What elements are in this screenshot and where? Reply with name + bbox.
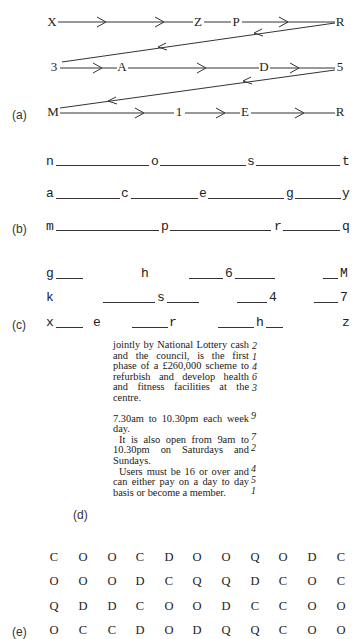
- blank-line: [56, 165, 149, 166]
- letter: R: [336, 15, 345, 28]
- grid-letter: C: [165, 574, 173, 589]
- letter: D: [259, 60, 268, 73]
- margin-number: 9: [251, 410, 256, 421]
- letter: m: [46, 220, 54, 233]
- blank-line: [189, 278, 223, 279]
- section-c-label: (c): [12, 318, 26, 332]
- grid-letter: O: [336, 623, 345, 638]
- section-a-label: (a): [12, 108, 27, 122]
- letter: p: [161, 220, 169, 233]
- blank-line: [167, 302, 199, 303]
- grid-letter: D: [192, 623, 201, 638]
- blank-line: [218, 327, 254, 328]
- paragraph: It is also open from 9am to 10.30pm on S…: [113, 435, 249, 467]
- letter: 4: [269, 291, 277, 304]
- grid-letter: D: [135, 623, 144, 638]
- grid-letter: Q: [250, 550, 259, 565]
- letter: e: [199, 187, 207, 200]
- grid-letter: Q: [49, 599, 58, 614]
- blank-line: [237, 302, 267, 303]
- section-b-label: (b): [12, 222, 27, 236]
- letter: q: [342, 220, 350, 233]
- letter: P: [232, 15, 239, 28]
- letter: A: [117, 60, 126, 73]
- letter: s: [157, 291, 165, 304]
- margin-number: 1: [251, 485, 256, 496]
- letter: h: [141, 267, 149, 280]
- letter: R: [336, 105, 345, 118]
- grid-letter: C: [136, 599, 144, 614]
- blank-line: [235, 278, 275, 279]
- letter: r: [169, 316, 177, 329]
- letter: 7: [340, 291, 348, 304]
- margin-number: 3: [252, 382, 257, 393]
- blank-line: [160, 165, 246, 166]
- grid-letter: O: [278, 550, 287, 565]
- letter: e: [93, 316, 101, 329]
- letter: 6: [225, 267, 233, 280]
- grid-letter: Q: [250, 623, 259, 638]
- grid-letter: O: [307, 599, 316, 614]
- grid-letter: D: [107, 599, 116, 614]
- letter: n: [46, 155, 54, 168]
- letter: 5: [337, 60, 344, 73]
- grid-letter: Q: [221, 574, 230, 589]
- grid-letter: C: [279, 623, 287, 638]
- letter: x: [46, 316, 54, 329]
- letter: z: [342, 316, 350, 329]
- grid-letter: C: [79, 623, 87, 638]
- grid-letter: C: [108, 623, 116, 638]
- grid-letter: C: [251, 599, 259, 614]
- grid-letter: O: [78, 574, 87, 589]
- blank-line: [323, 278, 338, 279]
- grid-letter: C: [279, 574, 287, 589]
- paragraph: Users must be 16 or over and can either …: [113, 467, 249, 499]
- grid-letter: O: [49, 574, 58, 589]
- grid-letter: O: [336, 599, 345, 614]
- blank-line: [283, 230, 340, 231]
- paragraph: 7.30am to 10.30pm each week day.: [113, 414, 249, 435]
- grid-letter: C: [136, 550, 144, 565]
- letter: t: [342, 155, 350, 168]
- grid-letter: O: [192, 599, 201, 614]
- grid-letter: D: [78, 599, 87, 614]
- grid-letter: C: [337, 574, 345, 589]
- margin-number: 5: [251, 474, 256, 485]
- blank-line: [266, 327, 283, 328]
- letter: s: [247, 155, 255, 168]
- blank-line: [56, 278, 83, 279]
- margin-number: 2: [251, 442, 256, 453]
- letter: c: [121, 187, 129, 200]
- letter: g: [46, 267, 54, 280]
- letter: X: [47, 15, 56, 28]
- grid-letter: O: [307, 623, 316, 638]
- blank-line: [103, 302, 155, 303]
- section-d-label: (d): [73, 508, 88, 522]
- grid-letter: D: [250, 574, 259, 589]
- grid-letter: O: [192, 550, 201, 565]
- article-text: jointly by National Lottery cash and the…: [113, 340, 249, 498]
- margin-number: 2: [252, 340, 257, 351]
- letter: M: [47, 105, 59, 118]
- grid-letter: D: [307, 550, 316, 565]
- grid-letter: C: [337, 550, 345, 565]
- blank-line: [131, 198, 198, 199]
- blank-line: [56, 198, 120, 199]
- grid-letter: D: [164, 550, 173, 565]
- letter: E: [241, 105, 249, 118]
- letter: h: [256, 316, 264, 329]
- grid-letter: D: [135, 574, 144, 589]
- grid-letter: D: [221, 599, 230, 614]
- blank-line: [295, 198, 341, 199]
- letter: a: [46, 187, 54, 200]
- blank-line: [256, 165, 340, 166]
- letter: 1: [176, 105, 183, 118]
- paragraph: jointly by National Lottery cash and the…: [113, 340, 249, 404]
- blank-line: [314, 302, 338, 303]
- letter: g: [286, 187, 294, 200]
- grid-letter: O: [307, 574, 316, 589]
- grid-letter: Q: [221, 623, 230, 638]
- letter: o: [151, 155, 159, 168]
- letter: y: [342, 187, 350, 200]
- grid-letter: O: [49, 623, 58, 638]
